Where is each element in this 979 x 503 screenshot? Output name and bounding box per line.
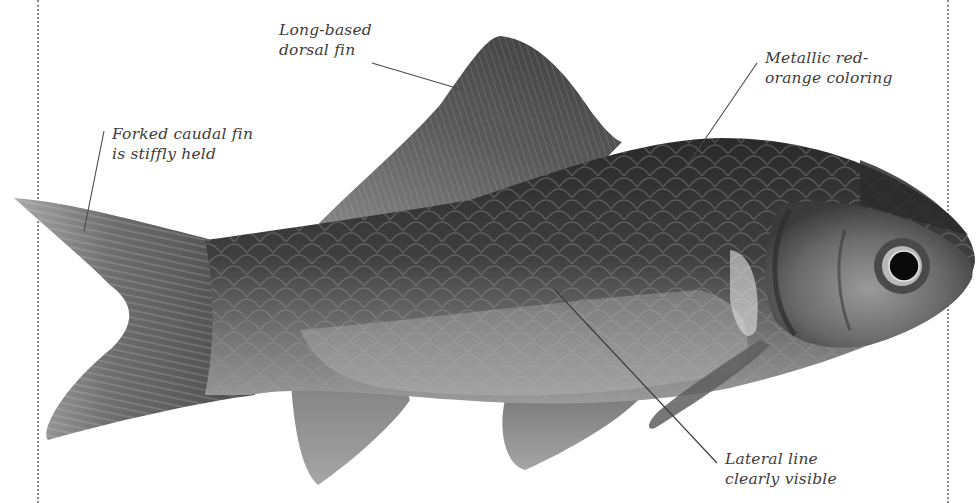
- callout-dorsal-fin-line1: Long-based: [279, 20, 372, 40]
- callout-caudal-fin-line1: Forked caudal fin: [112, 124, 253, 144]
- callout-lateral-line-line1: Lateral line: [725, 449, 837, 469]
- callout-coloring-line1: Metallic red-: [765, 48, 893, 68]
- figure-page: Long-based dorsal fin Metallic red- oran…: [0, 0, 979, 503]
- callout-caudal-fin-line2: is stiffly held: [112, 144, 253, 164]
- pelvic-fin: [502, 398, 640, 470]
- callout-caudal-fin: Forked caudal fin is stiffly held: [112, 124, 253, 164]
- fish-eye: [874, 238, 930, 294]
- callout-lateral-line: Lateral line clearly visible: [725, 449, 837, 489]
- callout-coloring-line2: orange coloring: [765, 68, 893, 88]
- callout-dorsal-fin-line2: dorsal fin: [279, 40, 372, 60]
- callout-dorsal-fin: Long-based dorsal fin: [279, 20, 372, 60]
- callout-coloring: Metallic red- orange coloring: [765, 48, 893, 88]
- callout-lateral-line-line2: clearly visible: [725, 469, 837, 489]
